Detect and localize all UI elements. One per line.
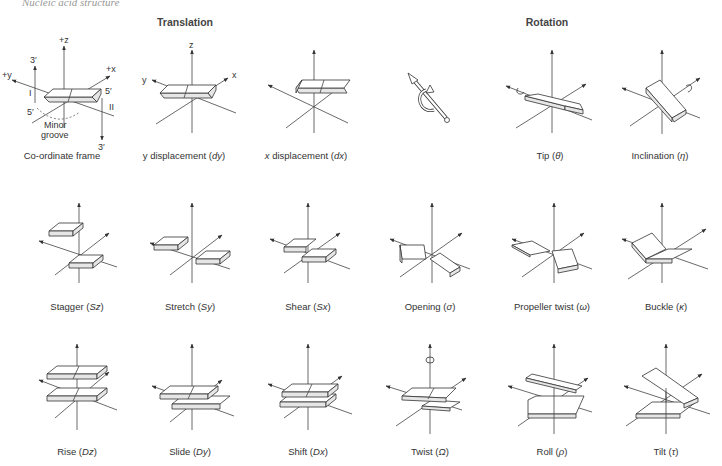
caption-slide: Slide (Dy) [130, 446, 250, 457]
label-5prime-left: 5′ [27, 107, 34, 117]
twist-diagram [370, 330, 490, 450]
label-x: x [232, 70, 237, 80]
panel-stretch: Stretch (Sy) [130, 183, 250, 333]
tip-diagram [490, 28, 610, 148]
rotation-arrow-icon [368, 28, 488, 148]
coordinate-frame-diagram: +z +x +y 3′ 5′ 5′ 3′ I II Minor groove [2, 28, 122, 148]
panel-x-displacement: x displacement (dx) [246, 28, 366, 178]
panel-roll: Roll (ρ) [492, 330, 612, 466]
panel-shear: Shear (Sx) [248, 183, 368, 333]
panel-rise: Rise (Dz) [17, 330, 137, 466]
x-displacement-diagram [246, 28, 366, 148]
label-groove: groove [41, 130, 69, 140]
panel-propeller-twist: Propeller twist (ω) [492, 183, 612, 333]
label-minor: Minor [44, 120, 67, 130]
panel-tilt: Tilt (τ) [606, 330, 722, 466]
panel-inclination: Inclination (η) [600, 28, 720, 178]
shift-diagram [248, 330, 368, 450]
section-title-translation: Translation [157, 16, 213, 28]
caption-opening: Opening (σ) [370, 301, 490, 312]
label-5prime-right: 5′ [105, 86, 112, 96]
rise-diagram [17, 330, 137, 450]
panel-coordinate-frame: +z +x +y 3′ 5′ 5′ 3′ I II Minor groove C… [2, 28, 122, 178]
caption-twist: Twist (Ω) [370, 446, 490, 457]
stagger-diagram [17, 183, 137, 303]
inclination-diagram [600, 28, 720, 148]
page-header: Nucleic acid structure [22, 0, 119, 8]
caption-rise: Rise (Dz) [17, 446, 137, 457]
panel-buckle: Buckle (κ) [606, 183, 722, 333]
panel-opening: Opening (σ) [370, 183, 490, 333]
stretch-diagram [130, 183, 250, 303]
label-3prime-top: 3′ [30, 55, 37, 65]
caption-propeller-twist: Propeller twist (ω) [492, 301, 612, 312]
buckle-diagram [606, 183, 722, 303]
opening-diagram [370, 183, 490, 303]
caption-x-displacement: x displacement (dx) [246, 150, 366, 161]
slide-diagram [130, 330, 250, 450]
section-title-rotation: Rotation [526, 16, 569, 28]
roll-diagram [492, 330, 612, 450]
caption-inclination: Inclination (η) [600, 150, 720, 161]
panel-tip: Tip (θ) [490, 28, 610, 178]
caption-stagger: Stagger (Sz) [17, 301, 137, 312]
label-strand-one: I [29, 88, 32, 98]
panel-shift: Shift (Dx) [248, 330, 368, 466]
caption-roll: Roll (ρ) [492, 446, 612, 457]
caption-tip: Tip (θ) [490, 150, 610, 161]
shear-diagram [248, 183, 368, 303]
caption-shift: Shift (Dx) [248, 446, 368, 457]
tilt-diagram [606, 330, 722, 450]
label-z: z [189, 40, 194, 50]
panel-rotation-legend [368, 28, 488, 178]
label-plus-z: +z [59, 35, 69, 45]
caption-tilt: Tilt (τ) [606, 446, 722, 457]
label-plus-x: +x [106, 64, 116, 74]
panel-stagger: Stagger (Sz) [17, 183, 137, 333]
label-plus-y: +y [2, 70, 12, 80]
label-strand-two: II [109, 102, 114, 112]
y-displacement-diagram: z x y [124, 28, 244, 148]
panel-y-displacement: z x y y displacement (dy) [124, 28, 244, 178]
caption-coordinate-frame: Co-ordinate frame [2, 150, 122, 161]
caption-y-displacement: y displacement (dy) [124, 150, 244, 161]
panel-slide: Slide (Dy) [130, 330, 250, 466]
label-y: y [142, 75, 147, 85]
panel-twist: Twist (Ω) [370, 330, 490, 466]
caption-stretch: Stretch (Sy) [130, 301, 250, 312]
caption-shear: Shear (Sx) [248, 301, 368, 312]
propeller-twist-diagram [492, 183, 612, 303]
caption-buckle: Buckle (κ) [606, 301, 722, 312]
